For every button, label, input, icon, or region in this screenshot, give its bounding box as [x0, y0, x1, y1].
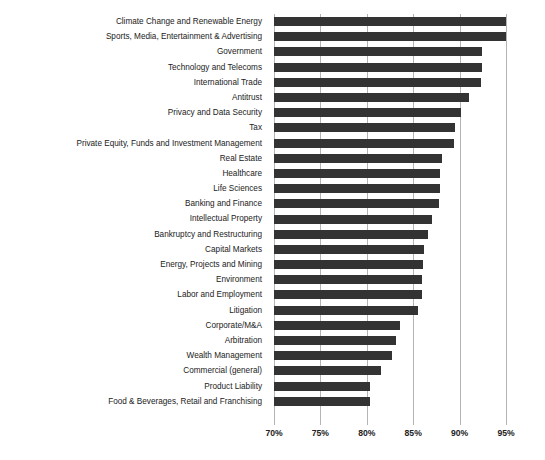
- bar-row: [274, 394, 506, 409]
- category-label: Intellectual Property: [0, 211, 268, 226]
- category-label: Litigation: [0, 303, 268, 318]
- category-label: Wealth Management: [0, 348, 268, 363]
- x-tick-label: 85%: [405, 428, 422, 438]
- bar-row: [274, 348, 506, 363]
- category-label: Labor and Employment: [0, 287, 268, 302]
- bar: [274, 260, 423, 269]
- plot-area: [274, 14, 506, 425]
- bar: [274, 275, 422, 284]
- bar-row: [274, 181, 506, 196]
- bar-row: [274, 14, 506, 29]
- category-label: Banking and Finance: [0, 196, 268, 211]
- bar: [274, 32, 506, 41]
- bar: [274, 336, 396, 345]
- category-label: International Trade: [0, 75, 268, 90]
- x-tick-label: 70%: [265, 428, 282, 438]
- category-label: Healthcare: [0, 166, 268, 181]
- bar-row: [274, 272, 506, 287]
- bar: [274, 366, 381, 375]
- bar: [274, 382, 370, 391]
- bar: [274, 108, 461, 117]
- bar-row: [274, 29, 506, 44]
- bar-row: [274, 242, 506, 257]
- bar: [274, 47, 482, 56]
- bar-row: [274, 60, 506, 75]
- bar-row: [274, 166, 506, 181]
- bar: [274, 184, 440, 193]
- bar-row: [274, 44, 506, 59]
- bar-row: [274, 105, 506, 120]
- category-axis-labels: Climate Change and Renewable EnergySport…: [0, 14, 268, 410]
- bar: [274, 245, 424, 254]
- bar-row: [274, 151, 506, 166]
- bar: [274, 290, 422, 299]
- category-label: Environment: [0, 272, 268, 287]
- bar-row: [274, 227, 506, 242]
- category-label: Energy, Projects and Mining: [0, 257, 268, 272]
- bar: [274, 78, 481, 87]
- category-label: Life Sciences: [0, 181, 268, 196]
- bar: [274, 17, 506, 26]
- bar: [274, 154, 442, 163]
- bar-row: [274, 75, 506, 90]
- category-label: Climate Change and Renewable Energy: [0, 14, 268, 29]
- bar-row: [274, 303, 506, 318]
- bar-row: [274, 136, 506, 151]
- bar-chart: Climate Change and Renewable EnergySport…: [0, 0, 545, 460]
- category-label: Food & Beverages, Retail and Franchising: [0, 394, 268, 409]
- bar: [274, 63, 482, 72]
- bar-row: [274, 333, 506, 348]
- category-label: Real Estate: [0, 151, 268, 166]
- bars-layer: [274, 14, 506, 410]
- bar-row: [274, 363, 506, 378]
- category-label: Capital Markets: [0, 242, 268, 257]
- x-axis: 70%75%80%85%90%95%: [274, 425, 506, 447]
- category-label: Commercial (general): [0, 363, 268, 378]
- bar-row: [274, 120, 506, 135]
- category-label: Government: [0, 44, 268, 59]
- bar: [274, 123, 455, 132]
- x-tick-label: 75%: [312, 428, 329, 438]
- category-label: Arbitration: [0, 333, 268, 348]
- bar-row: [274, 90, 506, 105]
- bar-row: [274, 257, 506, 272]
- category-label: Antitrust: [0, 90, 268, 105]
- bar-row: [274, 379, 506, 394]
- bar: [274, 215, 432, 224]
- bar-row: [274, 287, 506, 302]
- bar: [274, 93, 469, 102]
- x-tick-label: 80%: [358, 428, 375, 438]
- category-label: Product Liability: [0, 379, 268, 394]
- bar: [274, 397, 370, 406]
- category-label: Private Equity, Funds and Investment Man…: [0, 136, 268, 151]
- bar: [274, 169, 440, 178]
- category-label: Corporate/M&A: [0, 318, 268, 333]
- x-tick-label: 95%: [497, 428, 514, 438]
- category-label: Tax: [0, 120, 268, 135]
- bar: [274, 230, 428, 239]
- category-label: Technology and Telecoms: [0, 60, 268, 75]
- bar: [274, 351, 392, 360]
- x-tick-label: 90%: [451, 428, 468, 438]
- category-label: Bankruptcy and Restructuring: [0, 227, 268, 242]
- category-label: Privacy and Data Security: [0, 105, 268, 120]
- bar-row: [274, 196, 506, 211]
- category-label: Sports, Media, Entertainment & Advertisi…: [0, 29, 268, 44]
- bar: [274, 321, 400, 330]
- bar-row: [274, 211, 506, 226]
- bar: [274, 139, 454, 148]
- gridline-95: [506, 14, 507, 425]
- bar-row: [274, 318, 506, 333]
- bar: [274, 306, 418, 315]
- bar: [274, 199, 439, 208]
